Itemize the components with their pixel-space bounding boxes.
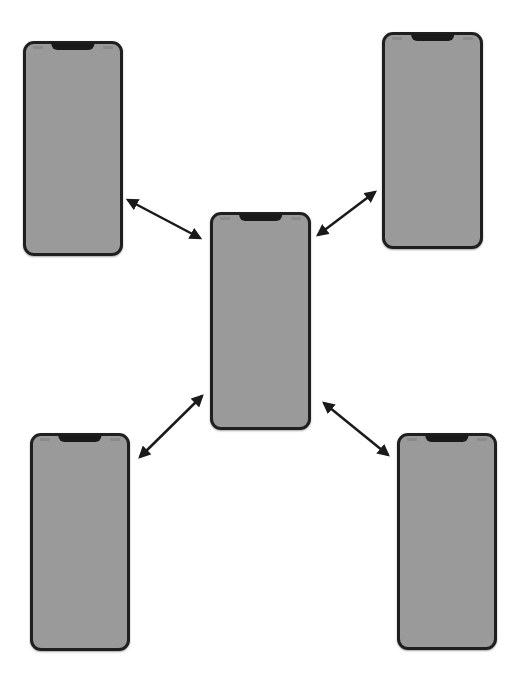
arrows-layer xyxy=(0,0,519,687)
double-arrow-icon xyxy=(140,396,202,457)
double-arrow-icon xyxy=(318,192,375,235)
double-arrow-icon xyxy=(128,200,200,238)
double-arrow-icon xyxy=(324,403,388,455)
